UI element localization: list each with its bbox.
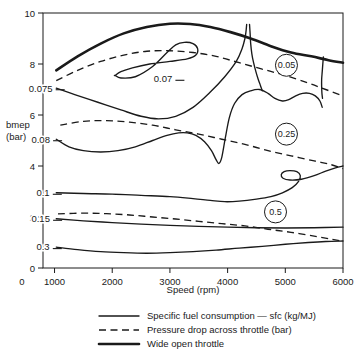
contour-label: 0.07: [154, 73, 173, 84]
legend-label: Wide open throttle: [147, 338, 224, 349]
y-axis-title-line1: bmep: [6, 119, 30, 130]
engine-performance-chart: 0246810 0100020003000400050006000 bmep (…: [0, 0, 358, 351]
chart-canvas: 0246810 0100020003000400050006000 bmep (…: [0, 0, 358, 351]
contour-label: 0.1: [36, 187, 49, 198]
x-tick-label: 1000: [44, 276, 65, 287]
y-axis-title-line2: (bar): [6, 131, 26, 142]
circled-contour-label: 0.05: [275, 54, 297, 76]
circled-contour-label: 0.5: [265, 201, 287, 223]
x-tick-label: 4000: [217, 276, 238, 287]
x-tick-label: 0: [19, 276, 24, 287]
y-tick-label: 10: [24, 8, 35, 19]
contour-label: 0.3: [36, 241, 49, 252]
y-tick-label: 6: [30, 110, 35, 121]
legend-label: Pressure drop across throttle (bar): [147, 324, 292, 335]
y-tick-label: 4: [30, 161, 35, 172]
circled-label-text: 0.05: [278, 60, 296, 70]
circled-label-text: 0.25: [278, 129, 296, 139]
contour-label: 0.15: [31, 213, 50, 224]
x-tick-label: 5000: [275, 276, 296, 287]
contour-label: 0.08: [31, 134, 50, 145]
y-tick-label: 8: [30, 59, 35, 70]
legend-label: Specific fuel consumption — sfc (kg/MJ): [147, 310, 316, 321]
circled-label-text: 0.5: [269, 207, 282, 217]
x-axis-title: Speed (rpm): [167, 284, 220, 295]
x-tick-label: 6000: [332, 276, 353, 287]
chart-background: [0, 0, 358, 351]
y-tick-label: 0: [30, 263, 35, 274]
circled-contour-label: 0.25: [275, 123, 297, 145]
x-tick-label: 2000: [102, 276, 123, 287]
contour-label: 0.075: [29, 83, 53, 94]
